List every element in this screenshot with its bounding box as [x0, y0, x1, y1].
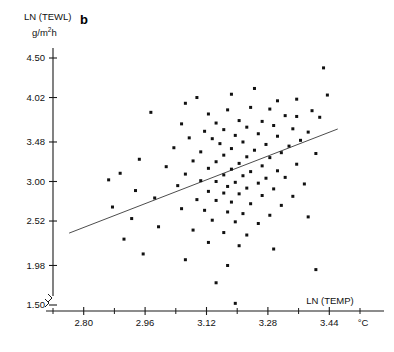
scatter-plot-svg: 1.501.982.523.003.484.024.502.802.963.12… — [0, 0, 394, 352]
data-point — [203, 209, 206, 212]
data-point — [222, 192, 225, 195]
x-tick-label: 3.28 — [259, 317, 278, 328]
data-point — [211, 219, 214, 222]
data-point — [276, 169, 279, 172]
data-point — [245, 126, 248, 129]
data-point — [226, 210, 229, 213]
data-point — [215, 199, 218, 202]
data-point — [218, 142, 221, 145]
data-point — [192, 159, 195, 162]
y-axis-break-icon — [48, 294, 52, 302]
data-point — [261, 120, 264, 123]
data-point — [238, 244, 241, 247]
data-point — [295, 115, 298, 118]
data-point — [261, 194, 264, 197]
data-point — [199, 150, 202, 153]
y-tick-label: 3.48 — [27, 136, 46, 147]
data-point — [153, 196, 156, 199]
data-point — [157, 225, 160, 228]
data-point — [180, 207, 183, 210]
data-point — [284, 114, 287, 117]
y-tick-label: 4.02 — [27, 92, 46, 103]
data-point — [226, 108, 229, 111]
data-point — [134, 189, 137, 192]
data-point — [307, 215, 310, 218]
data-point — [172, 146, 175, 149]
data-point — [130, 217, 133, 220]
data-point — [295, 98, 298, 101]
y-tick-label: 1.50 — [27, 299, 46, 310]
data-point — [230, 93, 233, 96]
data-point — [249, 170, 252, 173]
data-point — [122, 238, 125, 241]
data-point — [207, 241, 210, 244]
data-point — [314, 152, 317, 155]
data-point — [234, 134, 237, 137]
data-point — [291, 195, 294, 198]
data-point — [226, 185, 229, 188]
data-point — [238, 162, 241, 165]
data-point — [215, 180, 218, 183]
data-point — [257, 132, 260, 135]
y-tick-label: 4.50 — [27, 52, 46, 63]
data-point — [188, 136, 191, 139]
figure-panel: 1.501.982.523.003.484.024.502.802.963.12… — [0, 0, 394, 352]
x-tick-label: 2.96 — [136, 317, 155, 328]
data-point — [288, 145, 291, 148]
data-point — [107, 178, 110, 181]
data-point — [207, 167, 210, 170]
y-axis-title: LN (TEWL) — [24, 11, 72, 22]
data-point — [207, 190, 210, 193]
data-point — [222, 154, 225, 157]
data-point — [203, 130, 206, 133]
x-tick-label: 3.44 — [320, 317, 339, 328]
data-point — [245, 234, 248, 237]
data-point — [268, 108, 271, 111]
data-point — [326, 94, 329, 97]
data-point — [238, 192, 241, 195]
data-point — [230, 147, 233, 150]
data-point — [215, 122, 218, 125]
data-point — [241, 174, 244, 177]
data-point — [211, 137, 214, 140]
data-point — [176, 184, 179, 187]
data-point — [272, 187, 275, 190]
data-point — [249, 202, 252, 205]
data-point — [257, 222, 260, 225]
data-point — [184, 102, 187, 105]
data-point — [253, 149, 256, 152]
data-point — [314, 268, 317, 271]
data-point — [245, 187, 248, 190]
data-point — [241, 140, 244, 143]
data-point — [199, 179, 202, 182]
data-point — [234, 302, 237, 305]
data-point — [138, 158, 141, 161]
data-point — [192, 229, 195, 232]
data-point — [222, 128, 225, 131]
y-tick-label: 1.98 — [27, 260, 46, 271]
x-axis-title: LN (TEMP) — [306, 295, 354, 306]
data-point — [322, 66, 325, 69]
x-axis-units: °C — [358, 317, 369, 328]
data-point — [268, 214, 271, 217]
data-point — [303, 182, 306, 185]
data-point — [284, 176, 287, 179]
data-point — [119, 172, 122, 175]
data-point — [257, 182, 260, 185]
data-point — [291, 127, 294, 130]
data-point — [272, 124, 275, 127]
data-point — [195, 198, 198, 201]
data-points-group — [107, 66, 329, 304]
data-point — [245, 155, 248, 158]
data-point — [272, 248, 275, 251]
y-axis-units: g/m2h — [32, 26, 57, 38]
x-tick-label: 3.12 — [197, 317, 216, 328]
data-point — [215, 281, 218, 284]
data-point — [261, 164, 264, 167]
data-point — [280, 204, 283, 207]
data-point — [249, 106, 252, 109]
data-point — [142, 252, 145, 255]
data-point — [307, 131, 310, 134]
data-point — [276, 99, 279, 102]
y-tick-label: 2.52 — [27, 215, 46, 226]
